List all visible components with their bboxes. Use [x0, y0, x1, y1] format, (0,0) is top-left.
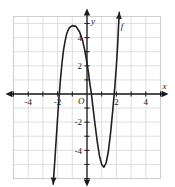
x-tick-label: -2 — [54, 97, 62, 107]
y-tick-label: -2 — [75, 117, 83, 127]
origin-label: O — [78, 96, 85, 106]
x-axis-label: x — [162, 81, 167, 91]
x-tick-label: 4 — [144, 97, 149, 107]
coordinate-plane: -4-22442-2-4 x y O f — [0, 0, 175, 187]
x-tick-label: 2 — [114, 97, 119, 107]
x-tick-label: -4 — [24, 97, 32, 107]
y-tick-label: 4 — [78, 33, 83, 43]
y-axis-label: y — [90, 16, 95, 26]
y-tick-label: 2 — [78, 61, 83, 71]
y-tick-label: -4 — [75, 146, 83, 156]
graph-figure: -4-22442-2-4 x y O f — [0, 0, 175, 187]
